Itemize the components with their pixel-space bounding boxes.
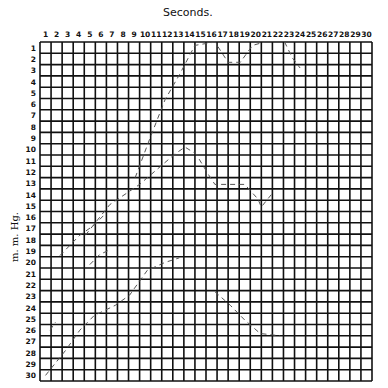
- x-axis-ticks: 1234567891011121314151617181920212223242…: [43, 30, 372, 39]
- y-tick-label: 19: [26, 247, 36, 256]
- y-tick-label: 25: [26, 315, 36, 324]
- y-tick-label: 22: [26, 281, 36, 290]
- y-tick-label: 27: [26, 337, 36, 346]
- x-tick-label: 15: [195, 30, 205, 39]
- x-tick-label: 8: [120, 30, 125, 39]
- y-tick-label: 15: [26, 202, 36, 211]
- y-axis-ticks: 1234567891011121314151617181920212223242…: [26, 44, 36, 381]
- x-tick-label: 25: [306, 30, 316, 39]
- x-tick-label: 20: [251, 30, 261, 39]
- y-tick-label: 24: [26, 304, 36, 313]
- y-tick-label: 7: [31, 111, 36, 120]
- x-tick-label: 12: [162, 30, 172, 39]
- x-tick-label: 2: [54, 30, 59, 39]
- x-tick-label: 16: [206, 30, 216, 39]
- y-tick-label: 16: [26, 213, 36, 222]
- x-tick-label: 24: [295, 30, 305, 39]
- y-tick-label: 23: [26, 292, 36, 301]
- y-tick-label: 2: [31, 55, 36, 64]
- x-tick-label: 23: [284, 30, 294, 39]
- trace-3: [60, 215, 104, 256]
- x-tick-label: 3: [65, 30, 70, 39]
- y-axis-label: m. m. Hg.: [9, 212, 20, 262]
- x-tick-label: 14: [184, 30, 194, 39]
- x-tick-label: 21: [262, 30, 272, 39]
- x-tick-label: 30: [361, 30, 371, 39]
- y-tick-label: 26: [26, 326, 36, 335]
- y-tick-label: 4: [31, 78, 36, 87]
- y-tick-label: 11: [26, 157, 36, 166]
- x-tick-label: 1: [43, 30, 48, 39]
- x-tick-label: 4: [76, 30, 81, 39]
- x-tick-label: 17: [217, 30, 227, 39]
- y-tick-label: 30: [26, 371, 36, 380]
- pressure-grid-chart: Seconds. 1234567891011121314151617181920…: [0, 0, 388, 388]
- x-tick-label: 19: [240, 30, 250, 39]
- chart-title: Seconds.: [163, 6, 213, 19]
- y-tick-label: 5: [31, 89, 36, 98]
- y-tick-label: 9: [31, 134, 36, 143]
- x-tick-label: 27: [328, 30, 338, 39]
- y-tick-label: 29: [26, 360, 36, 369]
- x-tick-label: 6: [98, 30, 103, 39]
- x-tick-label: 9: [131, 30, 136, 39]
- trace-2: [85, 147, 271, 235]
- x-tick-label: 18: [228, 30, 238, 39]
- grid: [40, 42, 372, 381]
- x-tick-label: 5: [87, 30, 92, 39]
- x-tick-label: 7: [109, 30, 114, 39]
- y-tick-label: 8: [31, 123, 36, 132]
- y-tick-label: 17: [26, 224, 36, 233]
- y-tick-label: 6: [31, 100, 36, 109]
- y-tick-label: 1: [31, 44, 36, 53]
- x-tick-label: 29: [350, 30, 360, 39]
- x-tick-label: 22: [273, 30, 283, 39]
- x-tick-label: 11: [151, 30, 161, 39]
- y-tick-label: 3: [31, 66, 36, 75]
- x-tick-label: 28: [339, 30, 349, 39]
- x-tick-label: 10: [140, 30, 150, 39]
- x-tick-label: 13: [173, 30, 183, 39]
- x-tick-label: 26: [317, 30, 327, 39]
- y-tick-label: 10: [26, 145, 36, 154]
- y-tick-label: 21: [26, 270, 36, 279]
- y-tick-label: 18: [26, 236, 36, 245]
- y-tick-label: 14: [26, 191, 36, 200]
- y-tick-label: 12: [26, 168, 36, 177]
- y-tick-label: 13: [26, 179, 36, 188]
- y-tick-label: 28: [26, 349, 36, 358]
- y-tick-label: 20: [26, 258, 36, 267]
